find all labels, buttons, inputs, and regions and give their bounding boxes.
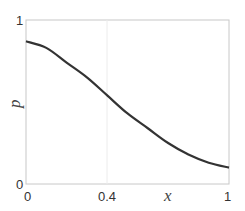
x-tick-0: 0 bbox=[24, 189, 31, 204]
y-tick-1: 1 bbox=[16, 13, 23, 28]
x-tick-1: 1 bbox=[224, 189, 231, 204]
y-axis-label: p bbox=[5, 100, 24, 110]
line-chart: 1 0 0 0.4 1 x p bbox=[0, 0, 245, 211]
x-axis-label: x bbox=[163, 186, 172, 205]
x-tick-0.4: 0.4 bbox=[98, 189, 116, 204]
y-tick-0: 0 bbox=[16, 177, 23, 192]
data-curve bbox=[26, 41, 229, 167]
